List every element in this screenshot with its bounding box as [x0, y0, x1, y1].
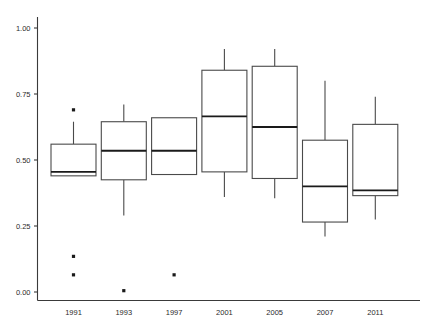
x-tick-label-1993: 1993	[115, 308, 132, 317]
box-rect-2007	[303, 140, 348, 222]
box-rect-2011	[353, 124, 398, 195]
boxplot-canvas: 0.000.250.500.751.00 1991199319972001200…	[0, 0, 430, 335]
box-rect-1997	[152, 118, 197, 175]
boxplot-figure: 0.000.250.500.751.00 1991199319972001200…	[0, 0, 430, 335]
x-tick-label-2011: 2011	[367, 308, 383, 317]
box-group-1997	[152, 118, 197, 277]
box-rect-2001	[202, 70, 247, 172]
box-series	[51, 49, 398, 292]
outlier-point-1991-1	[72, 255, 75, 258]
y-axis: 0.000.250.500.751.00	[16, 17, 38, 301]
outlier-point-1997-0	[173, 273, 176, 276]
x-tick-label-2001: 2001	[216, 308, 233, 317]
y-tick-label: 0.25	[16, 222, 31, 231]
box-rect-2005	[252, 66, 297, 178]
outlier-point-1991-0	[72, 108, 75, 111]
x-tick-label-2007: 2007	[317, 308, 334, 317]
y-tick-label: 0.50	[16, 156, 31, 165]
x-tick-label-1991: 1991	[65, 308, 82, 317]
box-group-2001	[202, 49, 247, 197]
y-tick-label: 0.00	[16, 288, 31, 297]
outlier-point-1993-0	[122, 289, 125, 292]
box-group-2005	[252, 49, 297, 198]
outlier-point-1991-2	[72, 273, 75, 276]
y-tick-label: 1.00	[16, 24, 31, 33]
box-group-1991	[51, 108, 96, 276]
x-axis: 1991199319972001200520072011	[38, 301, 421, 317]
box-group-2011	[353, 97, 398, 220]
box-group-1993	[101, 105, 146, 293]
y-tick-label: 0.75	[16, 90, 31, 99]
x-tick-label-1997: 1997	[166, 308, 183, 317]
x-tick-label-2005: 2005	[266, 308, 283, 317]
box-group-2007	[303, 81, 348, 237]
